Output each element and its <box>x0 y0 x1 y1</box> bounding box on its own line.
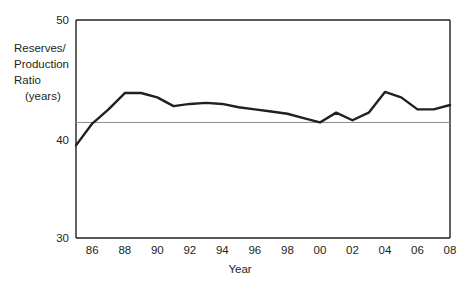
y-tick-label-30: 30 <box>56 232 69 244</box>
y-tick-label-40: 40 <box>56 134 69 146</box>
x-tick-label-94: 94 <box>216 244 229 256</box>
y-axis-title-line-1: Reserves/ <box>14 42 67 54</box>
x-tick-label-00: 00 <box>314 244 327 256</box>
x-axis-title: Year <box>228 263 251 275</box>
x-tick-label-86: 86 <box>86 244 99 256</box>
x-tick-label-96: 96 <box>248 244 261 256</box>
x-tick-label-08: 08 <box>444 244 457 256</box>
x-tick-label-02: 02 <box>346 244 359 256</box>
x-axis-tick-labels: 868890929496980002040608 <box>86 244 457 256</box>
x-tick-label-06: 06 <box>411 244 424 256</box>
y-axis-title-line-4: (years) <box>25 90 61 102</box>
data-series-line <box>76 92 450 145</box>
y-tick-label-50: 50 <box>56 14 69 26</box>
y-axis-title-line-2: Production <box>14 58 69 70</box>
chart-container: 50 40 30 Reserves/ Production Ratio (yea… <box>0 0 472 289</box>
x-tick-label-98: 98 <box>281 244 294 256</box>
y-axis-title-line-3: Ratio <box>14 74 41 86</box>
x-tick-label-88: 88 <box>118 244 131 256</box>
x-tick-label-90: 90 <box>151 244 164 256</box>
x-tick-label-92: 92 <box>183 244 196 256</box>
x-tick-label-04: 04 <box>379 244 392 256</box>
reserves-production-ratio-chart: 50 40 30 Reserves/ Production Ratio (yea… <box>0 0 472 289</box>
